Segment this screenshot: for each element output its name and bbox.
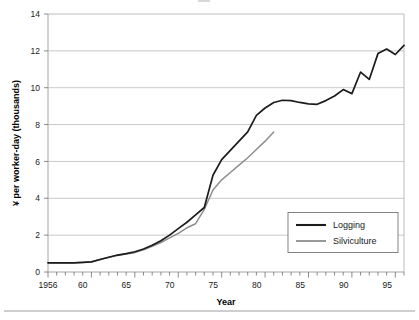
y-tick-label: 2	[35, 230, 40, 240]
y-tick-label: 10	[31, 83, 41, 93]
x-tick-label: 60	[78, 280, 88, 290]
x-tick-label: 1956	[39, 280, 58, 290]
series-line-silviculture	[48, 132, 274, 263]
x-tick-label: 85	[295, 280, 305, 290]
y-tick-label: 14	[31, 9, 41, 19]
y-axis-ticks	[44, 14, 48, 272]
legend-label-logging: Logging	[333, 220, 365, 230]
y-axis-title: ¥ per worker-day (thousands)	[11, 80, 21, 206]
x-tick-label: 90	[339, 280, 349, 290]
gridlines	[48, 51, 404, 235]
y-tick-label: 6	[35, 157, 40, 167]
x-tick-label: 95	[382, 280, 392, 290]
x-tick-label: 75	[209, 280, 219, 290]
x-axis-tick-labels: 1956 60 65 70 75 80 85 90 95	[39, 280, 393, 290]
legend-box	[288, 213, 398, 253]
line-chart: 14 12 10 8 6 4 2 0 1956 60 65 70 75 80 8…	[0, 0, 419, 320]
x-axis-minor-ticks	[48, 272, 404, 278]
chart-legend[interactable]: Logging Silviculture	[288, 213, 398, 253]
y-axis-tick-labels: 14 12 10 8 6 4 2 0	[31, 9, 41, 277]
chart-figure: 14 12 10 8 6 4 2 0 1956 60 65 70 75 80 8…	[0, 0, 419, 320]
x-tick-label: 80	[252, 280, 262, 290]
y-tick-label: 12	[31, 46, 41, 56]
x-tick-label: 65	[122, 280, 132, 290]
legend-label-silviculture: Silviculture	[333, 236, 377, 246]
x-axis-title: Year	[216, 297, 236, 307]
y-tick-label: 8	[35, 120, 40, 130]
y-tick-label: 0	[35, 267, 40, 277]
top-artifact	[198, 0, 210, 2]
y-tick-label: 4	[35, 193, 40, 203]
x-tick-label: 70	[165, 280, 175, 290]
